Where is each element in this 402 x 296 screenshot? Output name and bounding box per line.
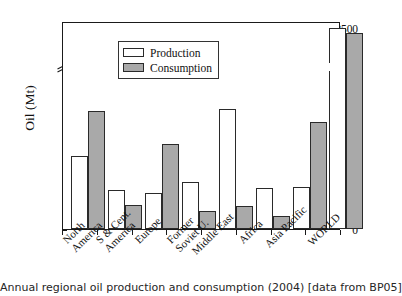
legend-swatch-consumption-icon [123,63,144,72]
legend: Production Consumption [118,41,219,79]
legend-label-consumption: Consumption [150,62,212,74]
bar-consumption-north-america [88,111,105,229]
bar-consumption-world [346,33,363,229]
legend-item-consumption: Consumption [123,60,212,75]
bar-consumption-asia-pacific [310,122,327,229]
x-tick-mark-5 [236,230,237,235]
legend-label-production: Production [150,47,200,59]
x-tick-mark-7 [305,230,306,235]
legend-swatch-production-icon [123,48,144,57]
legend-item-production: Production [123,45,212,60]
bar-consumption-europe [162,144,179,229]
figure-caption: Annual regional oil production and consu… [0,281,358,294]
y-axis-title: Oil (Mt) [22,58,38,158]
bar-production-world [329,28,346,229]
x-tick-mark-right-edge [340,230,341,235]
